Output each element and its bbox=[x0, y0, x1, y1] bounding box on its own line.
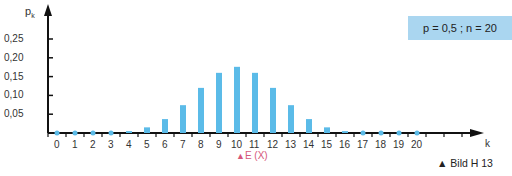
x-tick-label: 12 bbox=[267, 139, 278, 150]
y-axis-label: pk bbox=[25, 5, 35, 19]
bar bbox=[306, 119, 312, 133]
x-tick-label: 3 bbox=[108, 139, 114, 150]
x-tick-label: 0 bbox=[54, 139, 60, 150]
y-tick-label: 0,15 bbox=[4, 71, 23, 82]
y-tick-label: 0,05 bbox=[4, 108, 23, 119]
bar bbox=[342, 131, 348, 133]
bar bbox=[198, 88, 204, 133]
bar bbox=[180, 105, 186, 133]
x-tick-label: 4 bbox=[126, 139, 132, 150]
bar bbox=[216, 73, 222, 133]
x-tick-label: 1 bbox=[72, 139, 78, 150]
bar bbox=[324, 127, 330, 133]
x-tick-label: 20 bbox=[411, 139, 422, 150]
x-tick-label: 2 bbox=[90, 139, 96, 150]
bar bbox=[162, 119, 168, 133]
y-tick-label: 0,25 bbox=[4, 33, 23, 44]
bar bbox=[288, 105, 294, 133]
x-axis-label: k bbox=[485, 138, 490, 149]
figure-caption: ▲ Bild H 13 bbox=[437, 157, 493, 169]
x-tick-label: 19 bbox=[393, 139, 404, 150]
x-tick-label: 13 bbox=[285, 139, 296, 150]
x-tick-label: 14 bbox=[303, 139, 314, 150]
x-tick-label: 7 bbox=[180, 139, 186, 150]
x-tick-label: 18 bbox=[375, 139, 386, 150]
bar bbox=[252, 73, 258, 133]
x-tick-label: 5 bbox=[144, 139, 150, 150]
y-tick-label: 0,10 bbox=[4, 89, 23, 100]
x-tick-label: 16 bbox=[339, 139, 350, 150]
x-tick-label: 8 bbox=[198, 139, 204, 150]
x-tick-label: 15 bbox=[321, 139, 332, 150]
bar bbox=[126, 131, 132, 133]
x-tick-label: 9 bbox=[216, 139, 222, 150]
bar bbox=[234, 67, 240, 133]
x-tick-label: 6 bbox=[162, 139, 168, 150]
bar bbox=[270, 88, 276, 133]
expected-value-label: ▲E (X) bbox=[236, 150, 268, 161]
x-tick-label: 11 bbox=[249, 139, 259, 150]
bar bbox=[144, 127, 150, 133]
x-tick-label: 10 bbox=[231, 139, 242, 150]
y-tick-label: 0,20 bbox=[4, 52, 23, 63]
parameter-box: p = 0,5 ; n = 20 bbox=[408, 16, 512, 40]
x-tick-label: 17 bbox=[357, 139, 368, 150]
